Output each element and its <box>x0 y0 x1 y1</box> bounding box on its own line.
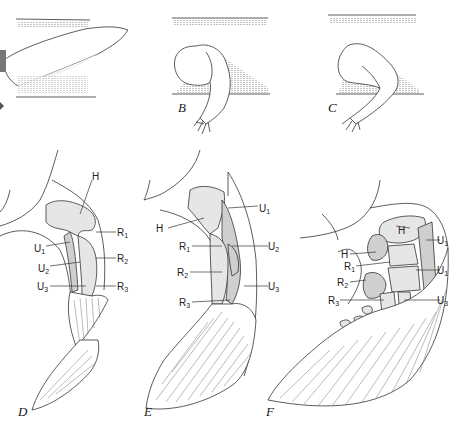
panel-label-f: F <box>265 404 275 419</box>
figure-canvas: B C H R1 U1 R2 U <box>0 0 452 424</box>
panel-label-c: C <box>328 100 337 115</box>
label-r1-d: R1 <box>117 227 128 239</box>
panel-a-label-fragment <box>0 102 4 110</box>
radius2-f <box>388 266 420 292</box>
panel-a-edge <box>0 50 6 72</box>
label-r3-e: R3 <box>179 297 190 309</box>
surface-shading <box>330 17 416 23</box>
panel-c: C <box>328 15 424 132</box>
panel-f: H U1 H R1 U1 R2 R3 U3 F <box>265 180 448 419</box>
flipper-tip-d <box>32 340 99 410</box>
label-u1-top-f: U1 <box>437 235 448 247</box>
radius1-f <box>388 244 418 266</box>
leader-h-e <box>168 218 204 228</box>
flipper-e <box>146 304 256 409</box>
body-outline-f-2 <box>322 214 338 240</box>
label-u1-d: U1 <box>34 243 45 255</box>
label-u3-d: U3 <box>37 281 48 293</box>
ulna-d <box>64 232 78 292</box>
panel-label-b: B <box>178 100 186 115</box>
label-u2-d: U2 <box>38 263 49 275</box>
body-outline-d-2 <box>0 190 10 212</box>
panel-a <box>0 19 128 110</box>
body-outline-f <box>300 180 380 238</box>
label-r1-f: R1 <box>344 261 355 273</box>
radius-d <box>78 236 97 296</box>
leader-r3-e <box>192 300 230 302</box>
panel-label-e: E <box>143 404 152 419</box>
label-r2-f: R2 <box>337 277 348 289</box>
label-h-f: H <box>341 249 348 260</box>
head-f <box>368 234 389 260</box>
label-u1-e: U1 <box>259 203 270 215</box>
label-u3-f: U3 <box>437 295 448 307</box>
surface-shading <box>174 20 266 25</box>
label-r1-e: R1 <box>179 241 190 253</box>
label-h-d: H <box>92 171 99 182</box>
label-h-top-f: H <box>398 225 405 236</box>
panel-d: H R1 U1 R2 U2 U3 R3 D <box>0 150 128 419</box>
label-u3-e: U3 <box>268 281 279 293</box>
panel-e: U1 H R1 U2 R2 U3 R3 E <box>143 150 279 419</box>
label-u2-e: U2 <box>268 241 279 253</box>
flipper-f <box>268 248 448 406</box>
leader-u1-e <box>228 206 258 208</box>
panel-label-d: D <box>17 404 28 419</box>
surface-shading <box>18 22 88 28</box>
label-r2-e: R2 <box>177 267 188 279</box>
surface-shading-lower <box>18 76 88 94</box>
label-r3-d: R3 <box>117 281 128 293</box>
forearm-d <box>68 292 108 346</box>
humerus-e <box>188 186 225 234</box>
body-surface-line-top <box>16 19 90 20</box>
body-outline-e-2 <box>144 180 150 200</box>
label-r3-f: R3 <box>328 295 339 307</box>
panel-b: B <box>172 18 270 134</box>
label-h-e: H <box>156 223 163 234</box>
label-r2-d: R2 <box>117 253 128 265</box>
leader-r1-f <box>356 262 390 266</box>
